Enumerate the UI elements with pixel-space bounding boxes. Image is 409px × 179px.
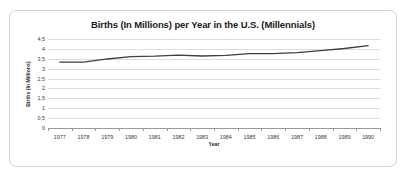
y-axis-tick-label: 0 [42,125,45,131]
y-axis-tick-label: 4 [42,46,45,52]
x-axis-tick-label: 1984 [220,134,232,140]
x-axis-tick [356,128,357,131]
y-axis-tick-label: 1,5 [38,95,46,101]
x-axis-tick [72,128,73,131]
y-axis-tick-label: 3 [42,66,45,72]
x-axis-tick-label: 1978 [78,134,90,140]
x-axis-tick-label: 1987 [291,134,303,140]
x-axis-tick [333,128,334,131]
plot-area: 00,511,522,533,544,5 1977197819791980198… [48,39,380,128]
x-axis-tick-label: 1988 [315,134,327,140]
x-axis-tick-label: 1989 [338,134,350,140]
x-axis-title: Year [48,141,380,147]
x-axis-tick [95,128,96,131]
x-axis-tick-label: 1982 [172,134,184,140]
x-axis-tick-label: 1977 [54,134,66,140]
x-axis-tick-label: 1986 [267,134,279,140]
x-axis-tick [190,128,191,131]
data-series-line [48,39,380,128]
x-axis-tick [309,128,310,131]
x-axis-tick [261,128,262,131]
chart-container: Births (In Millions) per Year in the U.S… [9,10,397,167]
x-axis-tick-label: 1990 [362,134,374,140]
y-axis-tick-label: 0,5 [38,115,46,121]
x-axis-tick [143,128,144,131]
x-axis-tick [48,128,49,131]
x-axis-tick [214,128,215,131]
y-axis-tick-label: 4,5 [38,36,46,42]
x-axis-tick-label: 1979 [101,134,113,140]
x-axis-tick [167,128,168,131]
chart-title: Births (In Millions) per Year in the U.S… [10,19,396,30]
x-axis-tick [119,128,120,131]
y-axis-tick-label: 2,5 [38,76,46,82]
x-axis-tick-label: 1980 [125,134,137,140]
x-axis-tick [285,128,286,131]
x-axis-tick [380,128,381,131]
x-axis-tick-label: 1983 [196,134,208,140]
y-axis-title: Births (In Millions) [23,39,33,128]
x-axis-tick-label: 1985 [244,134,256,140]
y-axis-title-label: Births (In Millions) [25,61,31,106]
y-axis-tick-label: 2 [42,85,45,91]
x-axis-tick [238,128,239,131]
y-axis-tick-label: 3,5 [38,56,46,62]
x-axis-tick-label: 1981 [149,134,161,140]
y-axis-tick-label: 1 [42,105,45,111]
series-line [60,46,368,62]
